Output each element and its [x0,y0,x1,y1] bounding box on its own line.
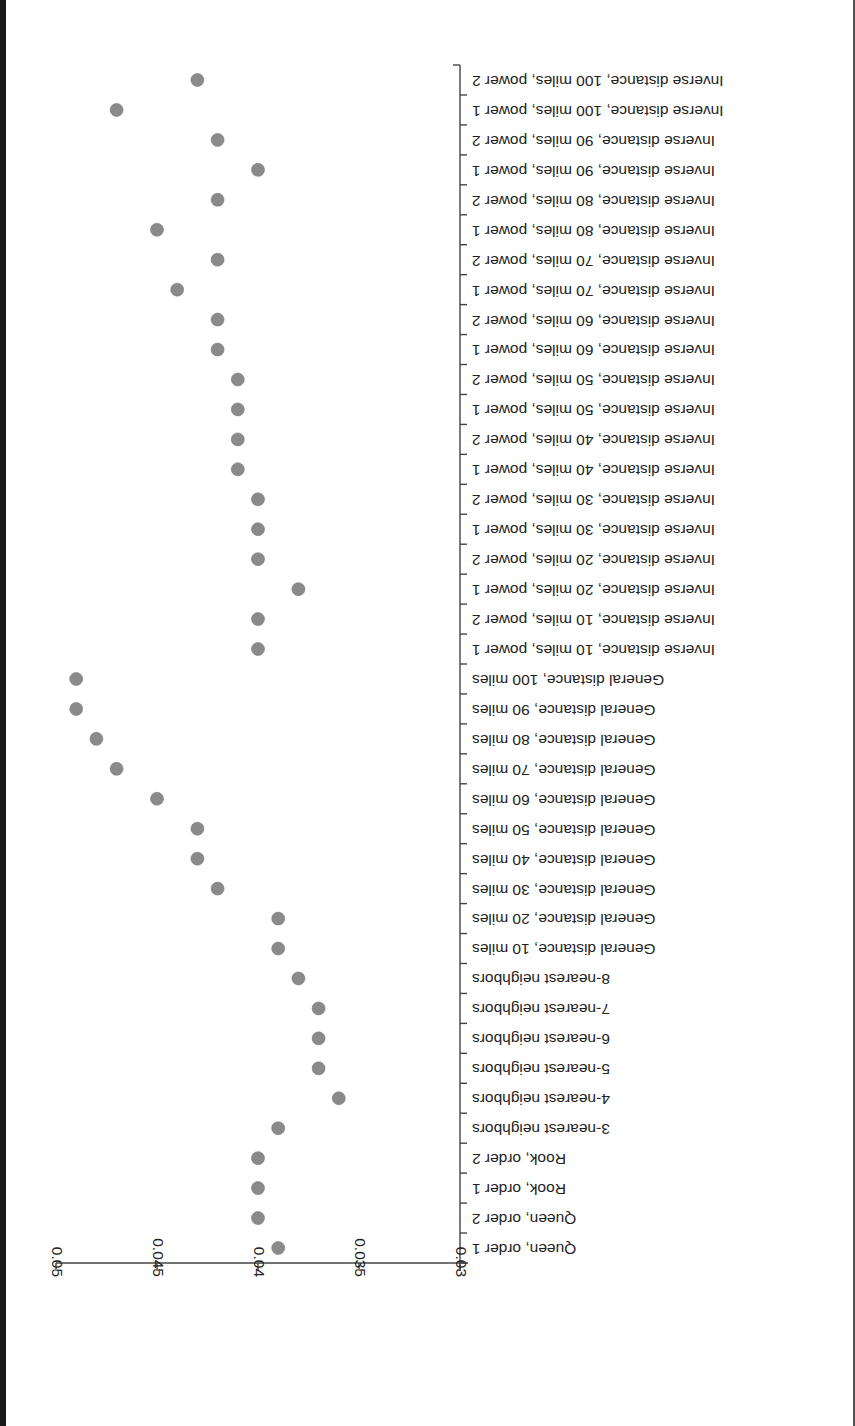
category-label: Inverse distance, 100 miles, power 2 [472,73,724,90]
data-point [191,852,204,865]
category-label: Inverse distance, 30 miles, power 2 [472,492,715,509]
category-label: Inverse distance, 50 miles, power 1 [472,402,715,419]
category-label: Inverse distance, 50 miles, power 2 [472,372,715,389]
category-label: Rook, order 1 [472,1181,566,1198]
data-point [191,74,204,87]
data-point [231,433,244,446]
data-point [252,523,265,536]
data-point [312,1032,325,1045]
category-label: General distance, 80 miles [472,732,656,749]
data-point [90,732,103,745]
chart-frame: 0.030.0350.040.0450.05 Queen, order 1Que… [0,0,855,1426]
category-label: Inverse distance, 90 miles, power 2 [472,133,715,150]
data-point [151,223,164,236]
data-point [252,613,265,626]
category-label: Inverse distance, 80 miles, power 1 [472,223,715,240]
category-label: General distance, 100 miles [472,672,664,689]
category-label: 3-nearest neighbors [472,1121,610,1138]
data-point [292,972,305,985]
category-label: General distance, 60 miles [472,792,656,809]
category-axis-labels: Queen, order 1Queen, order 2Rook, order … [460,73,724,1263]
value-tick-label: 0.035 [352,1238,369,1277]
category-label: Inverse distance, 10 miles, power 1 [472,642,715,659]
data-point [171,283,184,296]
data-point [231,463,244,476]
category-label: General distance, 10 miles [472,941,656,958]
data-point [211,882,224,895]
category-label: Inverse distance, 40 miles, power 1 [472,462,715,479]
category-label: Inverse distance, 20 miles, power 2 [472,552,715,569]
data-points [70,74,346,1255]
category-label: Rook, order 2 [472,1151,566,1168]
data-point [110,762,123,775]
category-label: Inverse distance, 100 miles, power 1 [472,103,724,120]
data-point [231,373,244,386]
data-point [252,163,265,176]
data-point [211,193,224,206]
category-label: Inverse distance, 70 miles, power 2 [472,253,715,270]
category-label: 8-nearest neighbors [472,971,610,988]
value-axis-ticks: 0.030.0350.040.0450.05 [49,1238,470,1277]
value-tick-label: 0.05 [49,1247,66,1277]
value-tick-label: 0.04 [251,1247,268,1278]
category-label: Inverse distance, 60 miles, power 1 [472,342,715,359]
data-point [292,583,305,596]
data-point [272,942,285,955]
dot-plot: 0.030.0350.040.0450.05 Queen, order 1Que… [6,0,855,1426]
category-label: General distance, 70 miles [472,762,656,779]
data-point [211,343,224,356]
data-point [191,822,204,835]
plot-area: 0.030.0350.040.0450.05 Queen, order 1Que… [6,0,855,1426]
category-label: Inverse distance, 90 miles, power 1 [472,163,715,180]
data-point [211,133,224,146]
data-point [332,1092,345,1105]
axes [56,65,468,1271]
category-label: Inverse distance, 10 miles, power 2 [472,612,715,629]
data-point [252,1212,265,1225]
data-point [151,792,164,805]
category-label: Queen, order 2 [472,1211,576,1228]
data-point [252,1152,265,1165]
data-point [110,103,123,116]
data-point [272,1242,285,1255]
category-label: General distance, 90 miles [472,702,656,719]
category-label: General distance, 30 miles [472,882,656,899]
data-point [252,1182,265,1195]
category-label: General distance, 40 miles [472,852,656,869]
category-label: Inverse distance, 40 miles, power 2 [472,432,715,449]
data-point [231,403,244,416]
data-point [272,912,285,925]
data-point [312,1002,325,1015]
category-label: 6-nearest neighbors [472,1031,610,1048]
data-point [252,553,265,566]
category-label: General distance, 50 miles [472,822,656,839]
category-label: Inverse distance, 20 miles, power 1 [472,582,715,599]
data-point [70,672,83,685]
data-point [70,702,83,715]
data-point [252,643,265,656]
value-tick-label: 0.03 [453,1247,470,1277]
category-label: 7-nearest neighbors [472,1001,610,1018]
category-label: Inverse distance, 70 miles, power 1 [472,283,715,300]
category-label: 5-nearest neighbors [472,1061,610,1078]
category-label: General distance, 20 miles [472,911,656,928]
category-label: Inverse distance, 30 miles, power 1 [472,522,715,539]
data-point [211,253,224,266]
data-point [312,1062,325,1075]
value-tick-label: 0.045 [150,1238,167,1277]
category-label: Inverse distance, 80 miles, power 2 [472,193,715,210]
category-label: Inverse distance, 60 miles, power 2 [472,312,715,329]
data-point [252,493,265,506]
data-point [272,1122,285,1135]
data-point [211,313,224,326]
category-label: 4-nearest neighbors [472,1091,610,1108]
category-label: Queen, order 1 [472,1241,576,1258]
